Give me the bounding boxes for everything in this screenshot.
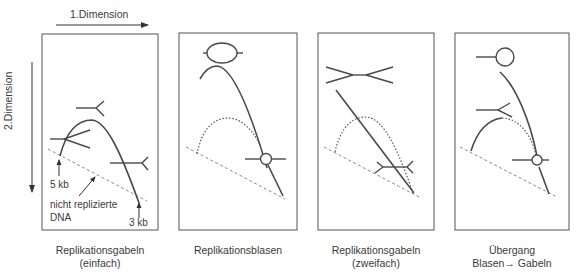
fork-arc-dotted: [502, 118, 536, 156]
fork-arc-dotted: [335, 117, 413, 193]
label-unreplicated-dna-line2: DNA: [50, 211, 71, 224]
first-dimension-label: 1.Dimension: [70, 8, 128, 20]
panel-3-double-forks: [318, 33, 434, 230]
caption-panel-4: Übergang Blasen→ Gabeln: [455, 244, 569, 270]
caption-line1: Replikationsgabeln: [318, 244, 434, 257]
double-fork-icon: [375, 161, 413, 173]
arrow-unreplicated: [79, 177, 95, 196]
diagram-canvas: [0, 0, 584, 272]
unreplicated-dna-diagonal: [48, 149, 147, 201]
panel-frame: [318, 33, 434, 230]
bubble-arc-curve: [200, 66, 267, 168]
label-5kb: 5 kb: [50, 178, 69, 191]
two-dimensional-gel-diagram: 1.Dimension 2.Dimension 5 kb nicht repli…: [0, 0, 584, 272]
bubble-small-icon: [512, 155, 549, 165]
caption-panel-1: Replikationsgabeln (einfach): [42, 244, 158, 270]
bubble-large-icon: [476, 48, 514, 66]
caption-line1: Replikationsblasen: [179, 244, 297, 257]
caption-line1: Replikationsgabeln: [42, 244, 158, 257]
double-fork-line: [336, 90, 414, 193]
fork-icon: [76, 101, 104, 116]
bubble-small-icon: [245, 154, 286, 165]
double-fork-icon: [326, 67, 393, 83]
caption-line2: (zweifach): [318, 257, 434, 270]
bubble-large-icon: [203, 43, 243, 63]
second-dimension-label: 2.Dimension: [2, 72, 14, 130]
panel-frame: [179, 33, 297, 230]
unreplicated-dna-diagonal: [324, 147, 421, 198]
panel-4-transition: [455, 33, 569, 230]
fork-icon: [110, 157, 148, 170]
caption-line2: (einfach): [42, 257, 158, 270]
label-unreplicated-dna-line1: nicht replizierte: [50, 198, 117, 211]
caption-panel-3: Replikationsgabeln (zweifach): [318, 244, 434, 270]
caption-line2: Blasen→ Gabeln: [455, 257, 569, 270]
label-3kb: 3 kb: [129, 216, 148, 229]
panel-2-bubbles: [179, 33, 297, 230]
unreplicated-dna-diagonal: [460, 147, 557, 197]
caption-panel-2: Replikationsblasen: [179, 244, 297, 257]
fork-icon: [476, 103, 512, 117]
fork-arc-solid: [471, 118, 502, 151]
caption-line1: Übergang: [455, 244, 569, 257]
